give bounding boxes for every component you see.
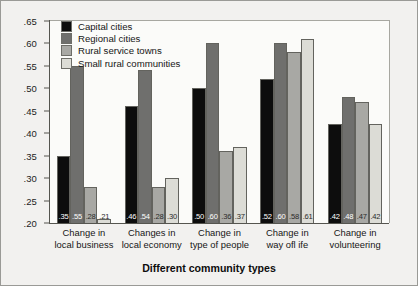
y-axis-tick-label: .60 (23, 38, 37, 49)
y-axis-tick-mark (44, 178, 49, 179)
bar: .58 (287, 52, 301, 223)
x-axis-category-labels: Change inlocal businessChanges inlocal e… (50, 227, 389, 257)
bar: .52 (260, 79, 274, 223)
bar: .50 (192, 88, 206, 223)
y-axis-tick-label: .65 (23, 16, 37, 27)
x-axis-category-label: Change involunteering (321, 227, 389, 250)
y-axis-ticks: .20.25.30.35.40.45.50.55.60.65 (1, 1, 49, 286)
x-axis-category-label-line: Change in (253, 227, 321, 239)
bar-value-label: .42 (370, 213, 382, 221)
y-axis-tick-mark (44, 65, 49, 66)
y-axis-tick-mark (44, 43, 49, 44)
y-axis-tick-label: .25 (23, 195, 37, 206)
bar: .28 (84, 187, 98, 223)
bar-value-label: .37 (234, 213, 246, 221)
x-axis-category-label-line: Change in (50, 227, 118, 239)
bar-value-label: .42 (329, 213, 341, 221)
x-axis-category-label: Change intype of people (186, 227, 254, 250)
y-axis-tick-mark (44, 223, 49, 224)
x-axis-category-label-line: type of people (186, 239, 254, 251)
bar: .60 (274, 43, 288, 223)
bar-group: .50.60.36.37 (186, 21, 254, 223)
y-axis-tick-label: .45 (23, 105, 37, 116)
x-axis-line (49, 223, 389, 224)
legend-swatch-icon (61, 45, 72, 56)
bar: .60 (206, 43, 220, 223)
y-axis-tick-mark (44, 200, 49, 201)
bar: .30 (165, 178, 179, 223)
bar-value-label: .21 (98, 213, 110, 221)
bar-chart-figure: .20.25.30.35.40.45.50.55.60.65 Capital c… (0, 0, 418, 286)
y-axis-tick-mark (44, 110, 49, 111)
bar-value-label: .35 (58, 213, 70, 221)
bar-value-label: .50 (193, 213, 205, 221)
bar: .46 (125, 106, 139, 223)
x-axis-category-label-line: Change in (321, 227, 389, 239)
x-axis-category-label-line: volunteering (321, 239, 389, 251)
bar: .42 (328, 124, 342, 223)
bar-value-label: .47 (356, 213, 368, 221)
x-axis-title: Different community types (1, 262, 417, 274)
legend-item-label: Capital cities (78, 21, 132, 32)
bar-group: .42.48.47.42 (321, 21, 389, 223)
x-axis-category-label-line: way ofl ife (253, 239, 321, 251)
x-axis-category-label-line: Changes in (118, 227, 186, 239)
bar: .55 (70, 66, 84, 223)
bar: .54 (138, 70, 152, 223)
bar-value-label: .60 (275, 213, 287, 221)
bar-value-label: .58 (288, 213, 300, 221)
y-axis-tick-mark (44, 88, 49, 89)
y-axis-tick-mark (44, 133, 49, 134)
y-axis-tick-label: .40 (23, 128, 37, 139)
bar: .36 (219, 151, 233, 223)
bar-value-label: .28 (85, 213, 97, 221)
legend-item-label: Rural service towns (78, 45, 162, 56)
bar-value-label: .60 (207, 213, 219, 221)
bar-value-label: .46 (126, 213, 138, 221)
legend-swatch-icon (61, 58, 72, 69)
legend-item-label: Small rural communities (78, 58, 180, 69)
bar: .28 (152, 187, 166, 223)
y-axis-tick-label: .50 (23, 83, 37, 94)
y-axis-tick-label: .30 (23, 173, 37, 184)
x-axis-category-label: Changes inlocal economy (118, 227, 186, 250)
y-axis-tick-label: .20 (23, 218, 37, 229)
bar: .35 (57, 156, 71, 223)
bar: .61 (301, 39, 315, 223)
chart-legend: Capital citiesRegional citiesRural servi… (61, 20, 180, 70)
y-axis-tick-mark (44, 155, 49, 156)
bar-value-label: .52 (261, 213, 273, 221)
bar-value-label: .36 (220, 213, 232, 221)
y-axis-tick-mark (44, 21, 49, 22)
bar-value-label: .48 (343, 213, 355, 221)
x-axis-category-label-line: local business (50, 239, 118, 251)
y-axis-tick-label: .35 (23, 150, 37, 161)
x-axis-category-label: Change inlocal business (50, 227, 118, 250)
plot-right-border (389, 20, 390, 223)
bar: .42 (369, 124, 383, 223)
y-axis-tick-label: .55 (23, 60, 37, 71)
bar: .21 (97, 219, 111, 223)
bar-value-label: .30 (166, 213, 178, 221)
x-axis-category-label: Change inway ofl ife (253, 227, 321, 250)
bar-value-label: .28 (153, 213, 165, 221)
legend-item: Capital cities (61, 20, 180, 32)
legend-swatch-icon (61, 21, 72, 32)
legend-item: Regional cities (61, 32, 180, 44)
legend-item: Rural service towns (61, 45, 180, 57)
bar: .48 (342, 97, 356, 223)
legend-item-label: Regional cities (78, 33, 140, 44)
legend-item: Small rural communities (61, 57, 180, 69)
bar: .47 (355, 102, 369, 223)
bar-value-label: .61 (302, 213, 314, 221)
x-axis-category-label-line: Change in (186, 227, 254, 239)
bar-value-label: .54 (139, 213, 151, 221)
bar-value-label: .55 (71, 213, 83, 221)
bar: .37 (233, 147, 247, 223)
legend-swatch-icon (61, 33, 72, 44)
x-axis-category-label-line: local economy (118, 239, 186, 251)
bar-group: .52.60.58.61 (253, 21, 321, 223)
